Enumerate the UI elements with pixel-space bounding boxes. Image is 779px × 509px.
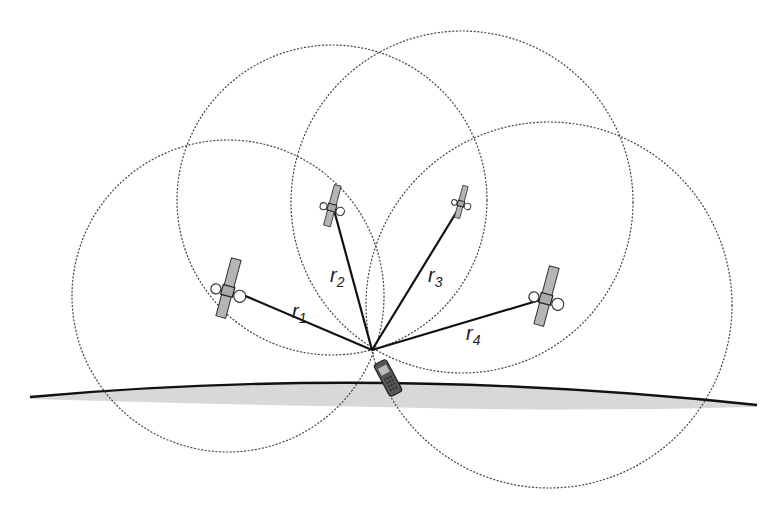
- range-label-r3: r3: [428, 264, 443, 290]
- satellite-1-icon: [204, 255, 254, 322]
- gps-diagram: r1 r2 r3 r4: [0, 0, 779, 509]
- range-label-r2: r2: [330, 264, 345, 290]
- satellite-4-icon: [522, 263, 572, 330]
- satellite-3-icon: [448, 184, 476, 221]
- satellite-2-icon: [315, 182, 350, 229]
- range-label-r1: r1: [292, 300, 306, 326]
- range-label-r4: r4: [466, 322, 481, 348]
